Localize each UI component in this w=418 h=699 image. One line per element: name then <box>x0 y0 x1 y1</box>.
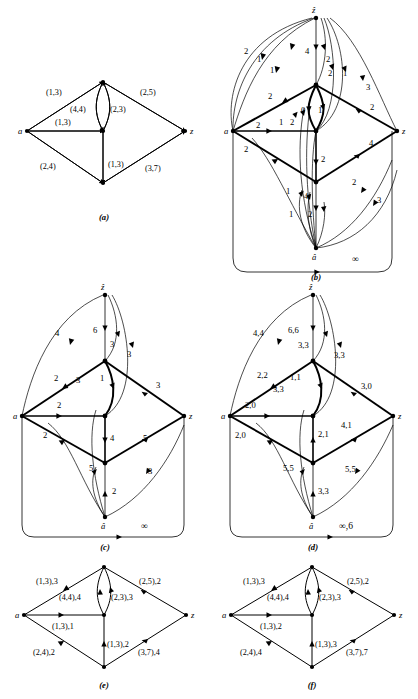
panel-f: a z (1,3),3 (2,5),2 (4,4),4 (2,3),3 (1,3… <box>205 555 418 699</box>
node-mid <box>103 414 108 419</box>
node-label-z: z <box>188 411 193 421</box>
infinity-label-d: ∞,6 <box>339 521 353 531</box>
edge-label-f-2: (4,4),4 <box>267 593 289 602</box>
edge-label-b-4: 2 <box>326 54 330 64</box>
edge-a-bottom <box>233 131 316 182</box>
panel-caption-d: (d) <box>308 542 318 552</box>
panel-caption-e: (e) <box>99 680 109 690</box>
node-top <box>314 83 319 88</box>
edge-label-f-4: (1,3),2 <box>260 622 282 631</box>
edge-label-c-13: 3 <box>148 466 152 476</box>
panel-e: a z (1,3),3 (2,5),2 (4,4),4 (2,3),3 (1,3… <box>0 555 210 699</box>
edge-label-d-4: 2,2 <box>257 370 268 380</box>
edge-label-b-20: 2 <box>308 209 312 219</box>
edge-top-zhat-2 <box>316 18 325 85</box>
node-bottom <box>102 665 106 669</box>
node-top <box>101 80 105 84</box>
edge-label-b-21: 2 <box>352 177 356 187</box>
node-label-z: z <box>190 610 195 620</box>
node-bottom <box>310 665 314 669</box>
edge-return-infinity <box>230 416 393 537</box>
edge-label-b-0: 2 <box>244 46 248 56</box>
node-label-z: z <box>189 126 194 136</box>
edge-label-d-1: 6,6 <box>288 325 299 335</box>
node-z <box>395 129 399 133</box>
edge-label-b-7: 3 <box>366 82 370 92</box>
node-mid <box>314 129 319 134</box>
edge-label-f-0: (1,3),3 <box>243 577 265 586</box>
edge-label-b-12: 0 <box>301 105 305 115</box>
edge-label-e-1: (2,5),2 <box>139 577 161 586</box>
node-z <box>392 613 396 617</box>
panel-caption-a: (a) <box>99 212 109 222</box>
edge-label-b-5: 2 <box>328 68 332 78</box>
edge-label-b-15: 2 <box>244 144 248 154</box>
edge-mid-zhat <box>105 295 128 416</box>
edge-label-c-0: 4 <box>55 328 60 338</box>
panel-d: a z ẑ â 4,4 6,6 3,3 3,3 2,2 3,3 1,1 3,0 … <box>205 285 418 555</box>
edge-label-f-6: (1,3),3 <box>315 640 337 649</box>
figure-grid: a z (1,3) (2,5) (4,4) (2,3) (1,3) (2,4) … <box>0 0 418 699</box>
node-label-z: z <box>398 610 403 620</box>
edge-label-c-1: 6 <box>93 325 98 335</box>
node-label-a: a <box>15 610 19 620</box>
edge-label-c-3: 3 <box>127 349 131 359</box>
edge-label-c-7: 3 <box>156 380 160 390</box>
edge-label-d-3: 3,3 <box>334 350 345 360</box>
edge-top-z <box>105 361 184 416</box>
edge-label-c-6: 1 <box>100 373 104 383</box>
edge-label-f-5: (2,4),4 <box>240 648 262 657</box>
panel-caption-b: (b) <box>311 272 321 282</box>
edge-label-e-3: (2,3),3 <box>111 593 133 602</box>
edge-label-d-9: 2,0 <box>235 430 246 440</box>
edge-label-d-6: 1,1 <box>290 372 301 382</box>
edge-label-c-12: 5 <box>89 463 93 473</box>
edge-label-d-10: 2,1 <box>318 429 329 439</box>
edge-label-b-6: 1 <box>343 68 347 78</box>
edge-label-a-mid: (1,3) <box>55 118 71 127</box>
node-a <box>22 613 26 617</box>
node-mid <box>311 414 316 419</box>
node-label-a: a <box>224 126 228 136</box>
node-label-a: a <box>18 126 22 136</box>
edge-label-b-2: 1 <box>270 65 274 75</box>
edge-label-b-22: 3 <box>377 195 381 205</box>
node-ahat <box>311 515 315 519</box>
edge-label-e-2: (4,4),4 <box>59 593 81 602</box>
edge-a-top <box>24 567 104 615</box>
edge-label-c-2: 3 <box>110 339 114 349</box>
node-label-zhat: ẑ <box>308 282 313 292</box>
node-label-a: a <box>221 411 225 421</box>
node-label-a: a <box>13 411 17 421</box>
edge-label-b-8: 2 <box>268 91 272 101</box>
node-z <box>184 613 188 617</box>
node-label-ahat: â <box>309 521 313 531</box>
node-z <box>183 129 187 133</box>
edge-mid-top <box>105 361 113 416</box>
node-ahat <box>103 515 107 519</box>
edge-label-b-16: 2 <box>321 154 325 164</box>
node-top <box>102 565 106 569</box>
infinity-label-c: ∞ <box>141 521 148 531</box>
edge-label-b-17: 1 <box>286 186 290 196</box>
edge-label-d-12: 5,5 <box>283 463 294 473</box>
edge-mid-zhat <box>313 295 336 416</box>
node-label-z: z <box>397 411 402 421</box>
edge-label-d-13: 5,5 <box>345 464 356 474</box>
edge-label-e-0: (1,3),3 <box>36 577 58 586</box>
node-bottom <box>314 180 319 185</box>
node-top <box>103 359 108 364</box>
edge-z-zhat-1 <box>330 18 397 131</box>
edge-label-c-8: 2 <box>57 400 61 410</box>
edge-label-f-7: (3,7),7 <box>346 648 368 657</box>
edge-label-top-z: (2,5) <box>140 88 156 97</box>
edge-label-b-3: 4 <box>305 46 310 56</box>
node-label-ahat: â <box>101 521 105 531</box>
edge-label-d-7: 3,0 <box>361 381 372 391</box>
node-z <box>182 414 186 418</box>
edge-label-a-bottom: (2,4) <box>40 162 56 171</box>
edge-label-e-5: (2,4),2 <box>33 648 55 657</box>
edge-label-b-1: 1 <box>257 54 261 64</box>
node-top <box>311 359 316 364</box>
edge-label-b-19: 1 <box>289 209 293 219</box>
